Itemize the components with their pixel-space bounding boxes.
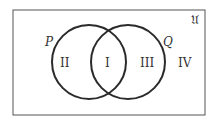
set-q-label: Q: [163, 35, 173, 49]
universe-symbol: 𝔘: [191, 13, 199, 27]
region-iii-label: III: [140, 56, 154, 70]
set-p-label: P: [44, 35, 54, 49]
venn-diagram: 𝔘 P Q II I III IV: [0, 0, 217, 120]
region-ii-label: II: [60, 56, 70, 70]
region-i-label: I: [105, 56, 110, 70]
region-iv-label: IV: [178, 56, 192, 70]
